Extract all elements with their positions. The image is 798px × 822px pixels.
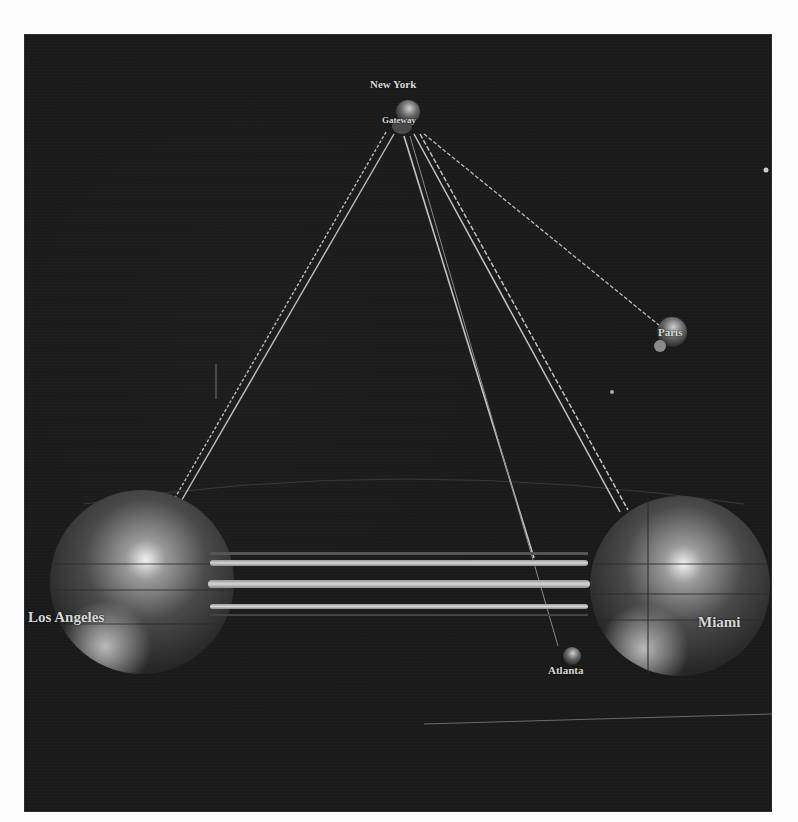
link-losangeles-miami[interactable] — [208, 552, 590, 616]
stray-point — [764, 168, 769, 173]
label-new-york: New York — [370, 78, 416, 90]
network-scene — [24, 34, 772, 812]
label-los-angeles: Los Angeles — [28, 609, 104, 626]
link-newyork-paris[interactable] — [424, 134, 660, 326]
stray-point — [610, 390, 614, 394]
link-newyork-atlanta[interactable] — [404, 136, 558, 646]
network-visualization-viewport: New York Gateway Paris Los Angeles Miami… — [24, 34, 772, 812]
node-miami[interactable] — [590, 496, 770, 676]
link-newyork-losangeles[interactable] — [168, 132, 394, 510]
label-atlanta: Atlanta — [548, 664, 583, 676]
label-gateway: Gateway — [382, 115, 416, 125]
link-newyork-miami[interactable] — [414, 134, 628, 512]
node-los-angeles[interactable] — [50, 490, 234, 674]
label-miami: Miami — [698, 614, 741, 631]
node-atlanta[interactable] — [563, 647, 581, 665]
label-paris: Paris — [658, 326, 682, 338]
